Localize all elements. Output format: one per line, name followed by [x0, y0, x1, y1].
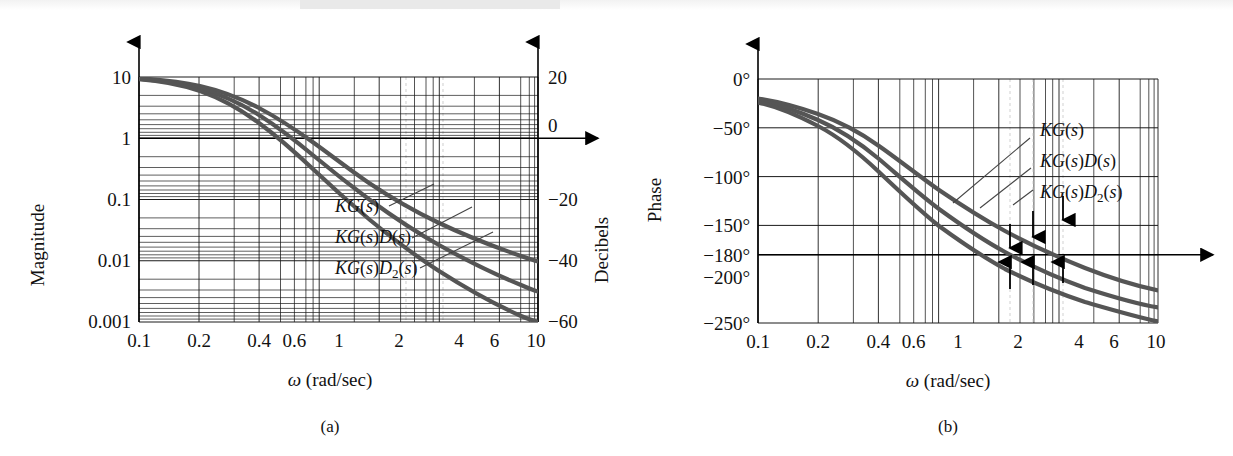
magnitude-panel: KG(s) KG(s)D(s) KG(s)D2(s) 10 1 0.1 0.01… [0, 0, 620, 456]
ytick-left-3: 0.01 [98, 250, 131, 271]
ytick-right-4: −60 [548, 311, 578, 332]
phase-curve-label-kg: KG(s) [1039, 120, 1084, 141]
magnitude-ylabel-left: Magnitude [27, 204, 48, 286]
xtick-1: 0.2 [187, 330, 211, 351]
curve-label-kgd: KG(s)D(s) [334, 227, 411, 248]
xtick-6: 4 [454, 330, 464, 351]
ytick-left-2: 0.1 [107, 189, 131, 210]
phase-ytick-0: 0° [733, 69, 750, 90]
phase-ytick-2: −100° [703, 167, 750, 188]
phase-xtick-5: 2 [1013, 331, 1023, 352]
ytick-right-3: −40 [548, 250, 578, 271]
xtick-4: 1 [334, 330, 344, 351]
curve-label-kg: KG(s) [334, 196, 379, 217]
phase-xtick-8: 10 [1147, 331, 1166, 352]
panel-b-caption: (b) [938, 417, 958, 436]
xtick-3: 0.6 [283, 330, 307, 351]
phase-axes [758, 44, 1213, 323]
magnitude-curve-labels: KG(s) KG(s)D(s) KG(s)D2(s) [334, 196, 418, 281]
xtick-5: 2 [394, 330, 404, 351]
phase-curve-label-kgd2: KG(s)D2(s) [1039, 182, 1123, 205]
xtick-7: 6 [490, 330, 500, 351]
phase-xlabel: ω (rad/sec) [906, 370, 991, 392]
phase-xtick-7: 6 [1109, 331, 1119, 352]
phase-ytick-labels: 0° −50° −100° −150° −180° −200° −250° [703, 69, 750, 334]
ytick-left-1: 1 [122, 128, 132, 149]
ytick-left-4: 0.001 [88, 311, 131, 332]
leader-kgd2 [420, 232, 493, 268]
ytick-right-0: 20 [548, 67, 567, 88]
magnitude-ylabel-right: Decibels [591, 217, 612, 283]
xtick-2: 0.4 [247, 330, 271, 351]
phase-xtick-0: 0.1 [746, 331, 770, 352]
phase-ytick-6: −250° [703, 313, 750, 334]
ytick-right-1: 0 [548, 115, 558, 136]
phase-curve-label-kgd: KG(s)D(s) [1039, 151, 1116, 172]
magnitude-ytick-labels-left: 10 1 0.1 0.01 0.001 [88, 67, 131, 332]
phase-leader-lines [953, 138, 1033, 208]
phase-ytick-5: −200° [703, 267, 750, 288]
phase-xtick-3: 0.6 [902, 331, 926, 352]
phase-xtick-6: 4 [1074, 331, 1084, 352]
xtick-0: 0.1 [127, 330, 151, 351]
phase-xtick-2: 0.4 [867, 331, 891, 352]
panel-a-caption: (a) [321, 417, 340, 436]
bode-plot-figure: KG(s) KG(s)D(s) KG(s)D2(s) 10 1 0.1 0.01… [0, 0, 1233, 456]
phase-ytick-3: −150° [703, 215, 750, 236]
ytick-left-0: 10 [112, 67, 131, 88]
phase-ylabel: Phase [644, 178, 665, 222]
ytick-right-2: −20 [548, 189, 578, 210]
phase-ytick-4: −180° [703, 245, 750, 266]
phase-panel: KG(s) KG(s)D(s) KG(s)D2(s) 0° [613, 0, 1233, 456]
leader-kg [389, 184, 434, 206]
magnitude-plot-svg: KG(s) KG(s)D(s) KG(s)D2(s) 10 1 0.1 0.01… [0, 0, 620, 456]
magnitude-xtick-labels: 0.1 0.2 0.4 0.6 1 2 4 6 10 [127, 330, 545, 351]
xtick-8: 10 [527, 330, 546, 351]
phase-xtick-1: 0.2 [806, 331, 830, 352]
phase-xtick-labels: 0.1 0.2 0.4 0.6 1 2 4 6 10 [746, 331, 1165, 352]
phase-ytick-1: −50° [713, 118, 750, 139]
phase-plot-svg: KG(s) KG(s)D(s) KG(s)D2(s) 0° [613, 0, 1233, 456]
phase-leader-kgd2 [1013, 190, 1033, 205]
curve-label-kgd2: KG(s)D2(s) [334, 258, 418, 281]
phase-leader-kg [953, 138, 1030, 203]
phase-curve-labels: KG(s) KG(s)D(s) KG(s)D2(s) [1039, 120, 1123, 205]
phase-xtick-4: 1 [953, 331, 963, 352]
magnitude-ytick-labels-right: 20 0 −20 −40 −60 [548, 67, 578, 332]
magnitude-xlabel: ω (rad/sec) [288, 369, 373, 391]
